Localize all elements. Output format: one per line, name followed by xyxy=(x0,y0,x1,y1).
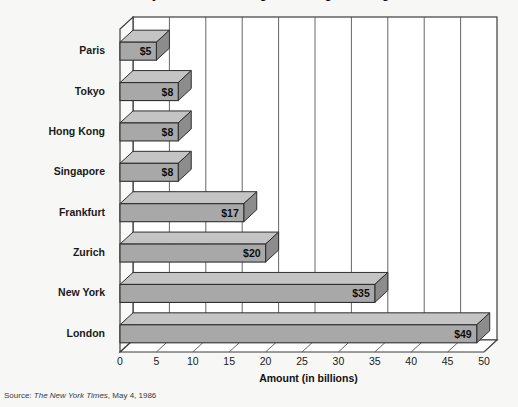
bar-value-tokyo: $8 xyxy=(162,86,174,98)
bar-value-labels: $5$8$8$8$17$20$35$49 xyxy=(0,0,518,380)
bar-value-paris: $5 xyxy=(140,45,152,57)
source-prefix: Source: xyxy=(4,391,32,400)
bar-value-london: $49 xyxy=(454,328,472,340)
source-publication: The New York Times xyxy=(34,391,108,400)
bar-value-frankfurt: $17 xyxy=(221,207,239,219)
source-note: Source: The New York Times, May 4, 1986 xyxy=(4,391,156,400)
source-suffix: , May 4, 1986 xyxy=(108,391,156,400)
bar-value-hong-kong: $8 xyxy=(162,126,174,138)
x-axis-title: Amount (in billions) xyxy=(120,372,497,384)
bar-value-new-york: $35 xyxy=(352,287,370,299)
bar-value-singapore: $8 xyxy=(162,166,174,178)
bar-value-zurich: $20 xyxy=(243,247,261,259)
chart-figure: Daily Volume of Foreign Exchange Trading… xyxy=(0,0,518,407)
